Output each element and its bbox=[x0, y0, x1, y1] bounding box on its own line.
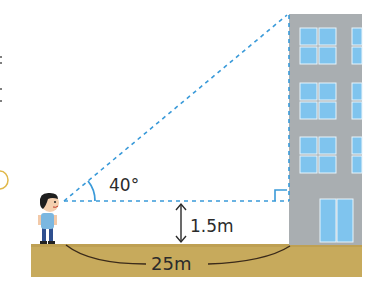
margin-marks bbox=[0, 56, 8, 189]
right-angle-mark bbox=[275, 190, 287, 201]
sight-line-hypotenuse bbox=[64, 15, 287, 201]
sight-lines bbox=[64, 15, 289, 201]
building-door bbox=[320, 199, 353, 242]
distance-label: 25m bbox=[151, 255, 191, 273]
height-arrow bbox=[176, 204, 186, 242]
eye-height-label: 1.5m bbox=[190, 218, 234, 235]
diagram-stage: 40° 1.5m 25m bbox=[0, 0, 388, 293]
angle-label: 40° bbox=[109, 177, 139, 194]
boy-figure bbox=[38, 193, 59, 244]
angle-arc bbox=[88, 181, 95, 201]
ground bbox=[31, 244, 362, 277]
building bbox=[289, 14, 362, 245]
diagram-svg bbox=[0, 0, 388, 293]
